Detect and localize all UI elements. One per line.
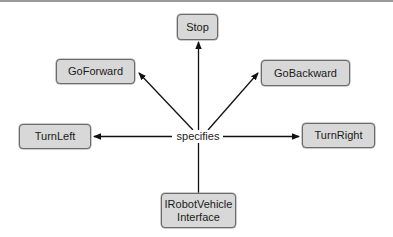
node-gobackward: GoBackward <box>261 60 350 86</box>
node-goforward-label: GoForward <box>68 65 123 78</box>
node-turnright-label: TurnRight <box>315 129 363 142</box>
node-interface-label-line1: IRobotVehicle <box>165 198 233 211</box>
node-interface-label-line2: Interface <box>177 211 220 224</box>
edge-to-goforward <box>139 73 193 130</box>
node-turnleft: TurnLeft <box>19 124 91 149</box>
node-irobotvehicle-interface: IRobotVehicle Interface <box>161 193 236 228</box>
center-label-text: specifies <box>177 130 220 142</box>
node-stop: Stop <box>177 14 218 40</box>
node-turnleft-label: TurnLeft <box>35 130 76 143</box>
node-turnright: TurnRight <box>302 123 375 148</box>
center-label-specifies: specifies <box>173 130 223 143</box>
edge-to-gobackward <box>208 73 258 130</box>
node-gobackward-label: GoBackward <box>274 67 337 80</box>
node-stop-label: Stop <box>186 21 209 34</box>
node-goforward: GoForward <box>56 59 135 84</box>
